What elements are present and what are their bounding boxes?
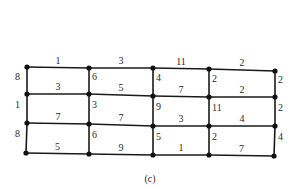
edge-weight-label: 5: [156, 131, 161, 142]
horizontal-edge: [209, 69, 275, 71]
horizontal-edge: [89, 154, 153, 155]
graph-node: [271, 153, 276, 158]
edge-weight-label: 9: [156, 101, 161, 112]
horizontal-edge: [26, 153, 89, 154]
edge-weight-label: 5: [119, 82, 124, 93]
horizontal-edge: [153, 68, 209, 69]
edge-weight-label: 7: [119, 112, 124, 123]
edge-weight-label: 2: [212, 131, 217, 142]
edge-weight-label: 11: [212, 102, 222, 113]
horizontal-edge: [153, 96, 209, 97]
graph-node: [23, 150, 28, 155]
graph-node: [206, 94, 211, 99]
edge-weight-label: 4: [240, 113, 245, 124]
horizontal-edge: [89, 124, 153, 126]
edge-weight-label: 2: [212, 73, 217, 84]
horizontal-edge: [27, 123, 89, 124]
graph-node: [206, 152, 211, 157]
edge-weight-label: 9: [119, 142, 124, 153]
edge-weight-label: 1: [15, 99, 20, 110]
graph-node: [86, 151, 91, 156]
graph-node: [150, 93, 155, 98]
edge-weight-label: 7: [179, 84, 184, 95]
edge-weight-label: 1: [179, 142, 184, 153]
graph-node: [24, 120, 29, 125]
edge-weight-label: 3: [119, 55, 124, 66]
graph-node: [206, 66, 211, 71]
graph-node: [86, 91, 91, 96]
edge-weight-label: 3: [92, 99, 97, 110]
graph-node: [272, 123, 277, 128]
graph-node: [150, 152, 155, 157]
figure-caption: (c): [144, 173, 155, 185]
edge-weight-label: 5: [55, 141, 60, 152]
graph-node: [24, 91, 29, 96]
edge-weight-label: 2: [278, 74, 283, 85]
horizontal-edge: [89, 94, 153, 96]
graph-node: [150, 65, 155, 70]
weighted-grid-graph: 131123572773459178642213911286524 (c): [0, 0, 301, 189]
edge-weight-label: 11: [176, 56, 186, 67]
vertical-edge: [26, 123, 27, 153]
edge-weight-label: 7: [56, 111, 61, 122]
edge-weight-label: 2: [278, 102, 283, 113]
edge-weight-label: 2: [240, 84, 245, 95]
graph-node: [86, 121, 91, 126]
edge-weight-label: 4: [156, 72, 161, 83]
horizontal-edge: [27, 67, 89, 68]
edge-weight-label: 6: [92, 71, 97, 82]
graph-node: [24, 64, 29, 69]
edge-weight-label: 2: [240, 57, 245, 68]
graph-node: [272, 68, 277, 73]
edge-weight-label: 7: [239, 143, 244, 154]
edge-weight-label: 1: [56, 55, 61, 66]
edge-weight-label: 4: [278, 131, 283, 142]
edge-weight-label: 8: [15, 71, 20, 82]
edge-weight-label: 3: [56, 81, 61, 92]
horizontal-edge: [209, 155, 274, 156]
graph-node: [272, 94, 277, 99]
edge-weight-label: 6: [92, 129, 97, 140]
graph-node: [150, 123, 155, 128]
edge-weight-label: 3: [179, 113, 184, 124]
graph-node: [206, 123, 211, 128]
edge-weight-label: 8: [15, 128, 20, 139]
vertical-edge: [274, 126, 275, 156]
graph-node: [86, 65, 91, 70]
